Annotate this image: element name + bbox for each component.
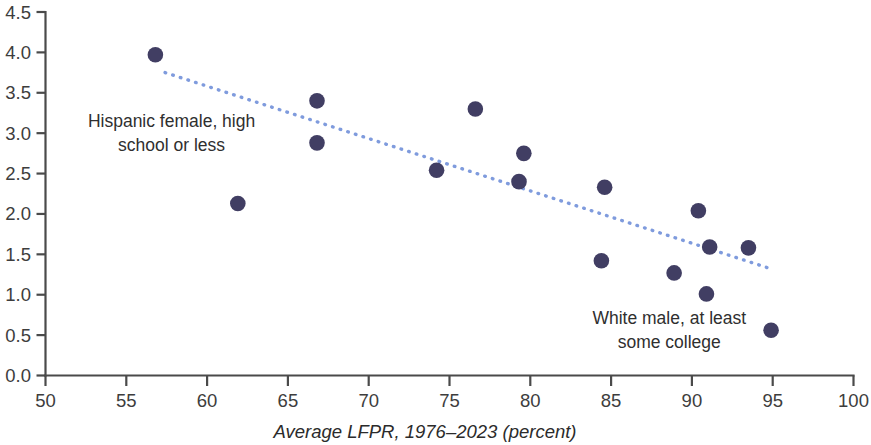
x-axis-group: 50556065707580859095100 (35, 376, 869, 412)
x-tick-label: 70 (358, 390, 379, 411)
x-tick-label: 90 (682, 390, 703, 411)
y-axis-group: 0.00.51.01.52.02.53.03.54.04.5 (5, 2, 45, 387)
y-tick-label: 2.0 (5, 203, 31, 224)
annotation-line: White male, at least (592, 308, 746, 328)
data-point (309, 135, 325, 151)
x-tick-marks (46, 376, 854, 387)
data-point (594, 253, 610, 269)
y-tick-label: 4.5 (5, 2, 31, 23)
x-tick-label: 60 (197, 390, 218, 411)
x-tick-label: 65 (278, 390, 299, 411)
data-point (702, 239, 718, 255)
data-point (691, 203, 707, 219)
x-tick-label: 55 (116, 390, 137, 411)
data-point (699, 286, 715, 302)
y-tick-label: 3.0 (5, 123, 31, 144)
annotation-line: some college (618, 332, 721, 352)
y-tick-label: 2.5 (5, 163, 31, 184)
data-point (148, 47, 164, 63)
trendline (165, 73, 771, 269)
annotation-hispanic-female: Hispanic female, highschool or less (88, 111, 255, 155)
data-point (309, 93, 325, 109)
data-point (763, 322, 779, 338)
x-tick-label: 80 (520, 390, 541, 411)
x-axis-title: Average LFPR, 1976–2023 (percent) (272, 421, 576, 442)
data-point (516, 146, 532, 162)
data-point (429, 163, 445, 179)
x-tick-label: 95 (762, 390, 783, 411)
chart-annotations: Hispanic female, highschool or lessWhite… (88, 111, 746, 352)
y-tick-label: 3.5 (5, 82, 31, 103)
x-tick-label: 75 (439, 390, 460, 411)
y-tick-label: 1.0 (5, 284, 31, 305)
y-tick-label: 4.0 (5, 42, 31, 63)
annotation-line: school or less (118, 135, 225, 155)
chart-canvas: 0.00.51.01.52.02.53.03.54.04.5 505560657… (0, 0, 871, 445)
x-tick-label: 50 (35, 390, 56, 411)
x-tick-label: 100 (838, 390, 869, 411)
data-points (148, 47, 779, 338)
y-tick-marks (37, 12, 46, 376)
data-point (230, 196, 246, 212)
x-tick-labels: 50556065707580859095100 (35, 390, 869, 411)
y-tick-label: 0.5 (5, 325, 31, 346)
data-point (468, 101, 484, 117)
y-tick-labels: 0.00.51.01.52.02.53.03.54.04.5 (5, 2, 31, 387)
y-tick-label: 0.0 (5, 365, 31, 386)
annotation-white-male: White male, at leastsome college (592, 308, 746, 352)
trendline-path (165, 73, 771, 269)
scatter-chart: 0.00.51.01.52.02.53.03.54.04.5 505560657… (0, 0, 871, 445)
data-point (511, 174, 527, 190)
x-tick-label: 85 (601, 390, 622, 411)
annotation-line: Hispanic female, high (88, 111, 255, 131)
data-point (597, 179, 613, 195)
data-point (741, 240, 757, 256)
data-point (666, 265, 682, 281)
y-tick-label: 1.5 (5, 244, 31, 265)
